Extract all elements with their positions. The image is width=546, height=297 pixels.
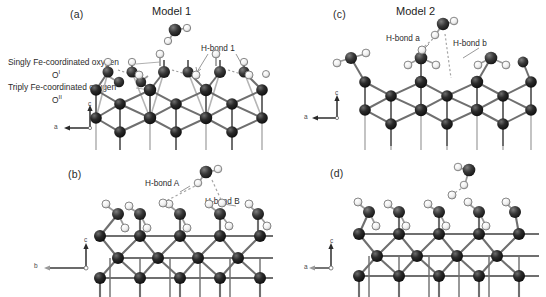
oxygen-atoms (345, 18, 528, 68)
panel-c: (c) Model 2 H-bond a H-bond b c a (273, 0, 546, 150)
hydrogen-bond-lines (164, 180, 222, 202)
panel-d-structure (273, 150, 546, 297)
hydrogen-atoms (102, 165, 271, 232)
iron-atoms (90, 84, 268, 138)
panel-b: (b) H-bond A H-bond B c b (0, 150, 273, 297)
panel-d-axis-indicator (309, 243, 334, 271)
panel-a-structure (0, 0, 273, 150)
panel-c-structure (273, 0, 546, 150)
panel-b-axis-indicator (44, 243, 89, 271)
hydrogen-atoms (354, 163, 510, 230)
hbond-leader-lines (424, 44, 479, 58)
panel-b-structure (0, 150, 273, 297)
panel-a-axis-indicator (64, 105, 93, 131)
water-bonds (107, 170, 266, 226)
hydrogen-bond-lines (423, 34, 451, 78)
oxygen-atoms (103, 24, 250, 88)
lattice-bonds-main (351, 58, 531, 146)
panel-c-axis-indicator (312, 95, 340, 121)
figure-canvas: (a) Model 1 H-bond 1 Singly Fe-coordinat… (0, 0, 546, 297)
oxygen-atoms (112, 166, 264, 220)
panel-a: (a) Model 1 H-bond 1 Singly Fe-coordinat… (0, 0, 273, 150)
oxygen-atoms (363, 164, 521, 218)
panel-d: (d) c a (273, 150, 546, 297)
